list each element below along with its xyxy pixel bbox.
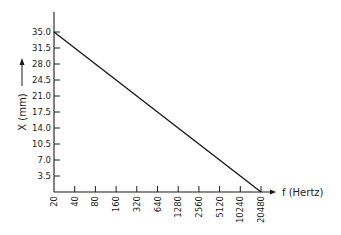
x-tick-label: 640	[153, 196, 163, 212]
y-tick-label: 28.0	[32, 59, 51, 69]
axis-labels: f (Hertz)X (mm)	[17, 58, 324, 198]
y-tick-label: 17.5	[32, 107, 51, 117]
x-tick-label: 1280	[173, 196, 183, 218]
up-arrow-icon	[20, 58, 25, 65]
chart: 3.57.010.514.017.521.024.528.031.535.0 2…	[0, 0, 341, 235]
x-axis: 2040801603206401280256051201024020480	[49, 186, 276, 223]
y-tick-label: 31.5	[32, 43, 51, 53]
x-axis-arrow-icon	[270, 190, 276, 195]
y-tick-label: 24.5	[32, 75, 51, 85]
x-tick-label: 80	[90, 196, 100, 207]
x-tick-label: 160	[111, 196, 121, 212]
y-tick-label: 35.0	[32, 27, 51, 37]
y-tick-label: 21.0	[32, 91, 51, 101]
x-tick-label: 40	[70, 196, 80, 207]
y-tick-label: 3.5	[37, 171, 51, 181]
x-tick-label: 20480	[256, 196, 266, 223]
x-tick-label: 320	[132, 196, 142, 212]
series-line	[54, 32, 261, 192]
data-line	[54, 32, 261, 192]
x-tick-label: 5120	[215, 196, 225, 218]
y-axis: 3.57.010.514.017.521.024.528.031.535.0	[32, 12, 60, 192]
x-tick-label: 2560	[194, 196, 204, 218]
y-tick-label: 14.0	[32, 123, 51, 133]
x-tick-label: 20	[49, 196, 59, 207]
y-tick-label: 7.0	[37, 155, 51, 165]
y-tick-label: 10.5	[32, 139, 51, 149]
x-axis-label: f (Hertz)	[282, 187, 324, 198]
x-tick-label: 10240	[235, 196, 245, 223]
y-axis-label: X (mm)	[17, 93, 28, 130]
